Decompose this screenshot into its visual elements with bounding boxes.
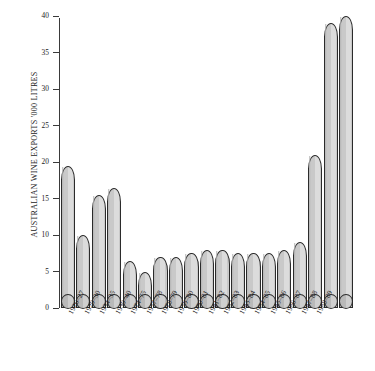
wine-exports-bar-chart: AUSTRALIAN WINE EXPORTS '000 LITRES 0510… xyxy=(0,0,375,371)
y-tick-label: 20 xyxy=(21,157,49,166)
y-tick-mark xyxy=(53,235,59,236)
y-tick-mark xyxy=(53,125,59,126)
y-axis-title: AUSTRALIAN WINE EXPORTS '000 LITRES xyxy=(30,25,39,285)
bar xyxy=(324,23,338,308)
y-tick-mark xyxy=(53,198,59,199)
y-tick-label: 40 xyxy=(21,11,49,20)
bar-body xyxy=(339,16,353,308)
bar xyxy=(308,155,322,308)
y-tick-mark xyxy=(53,271,59,272)
y-tick-mark xyxy=(53,162,59,163)
y-tick-label: 5 xyxy=(21,267,49,276)
y-tick-label: 30 xyxy=(21,84,49,93)
y-tick-label: 25 xyxy=(21,121,49,130)
y-tick-mark xyxy=(53,16,59,17)
bar-body xyxy=(61,166,75,308)
y-tick-label: 35 xyxy=(21,48,49,57)
bar xyxy=(61,166,75,308)
bar-body xyxy=(308,155,322,308)
y-tick-label: 15 xyxy=(21,194,49,203)
y-tick-mark xyxy=(53,308,59,309)
bar-base-ellipse xyxy=(339,294,353,309)
bar xyxy=(339,16,353,308)
y-tick-mark xyxy=(53,52,59,53)
y-tick-label: 0 xyxy=(21,303,49,312)
y-tick-mark xyxy=(53,89,59,90)
bar-body xyxy=(324,23,338,308)
y-tick-label: 10 xyxy=(21,230,49,239)
plot-area xyxy=(60,16,354,308)
